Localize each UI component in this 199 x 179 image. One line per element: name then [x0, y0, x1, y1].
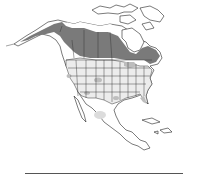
legend-divider	[25, 173, 183, 174]
aleutian-islands	[6, 44, 14, 46]
range-map	[0, 0, 199, 179]
winter-range	[94, 111, 106, 119]
caribbean-islands	[142, 118, 172, 134]
